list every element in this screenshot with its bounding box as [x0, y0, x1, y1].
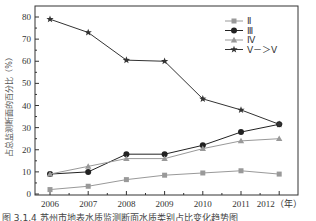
legend: ⅡⅢⅣⅤ－＞Ⅴ [225, 16, 278, 55]
svg-text:Ⅴ－＞Ⅴ: Ⅴ－＞Ⅴ [247, 45, 278, 55]
legend-item: Ⅴ－＞Ⅴ [225, 45, 278, 55]
x-tick-label: 2009 [156, 199, 175, 209]
x-tick-label: 2012（年） [257, 198, 302, 209]
x-tick-label: 2010 [194, 199, 213, 209]
plot-frame [35, 6, 298, 195]
x-tick-label: 2007 [79, 199, 98, 209]
y-tick-label: 80 [22, 12, 32, 22]
series-iii [47, 121, 282, 177]
legend-item: Ⅳ [225, 35, 256, 45]
legend-item: Ⅱ [225, 16, 251, 26]
x-tick-label: 2011 [232, 199, 250, 209]
y-tick-label: 60 [22, 56, 32, 66]
legend-item: Ⅲ [225, 26, 253, 36]
y-tick-label: 40 [22, 101, 32, 111]
y-tick-label: 0 [27, 189, 32, 199]
figure-caption: 图 3.1.4 苏州市地表水质监测断面水质类别占比变化趋势图 [2, 211, 238, 221]
y-tick-label: 70 [22, 34, 32, 44]
line-chart: 01020304050607080 2006200720082009201020… [0, 0, 316, 221]
y-tick-label: 30 [22, 123, 32, 133]
svg-text:Ⅳ: Ⅳ [247, 35, 256, 45]
svg-text:Ⅱ: Ⅱ [247, 16, 251, 26]
y-axis-label: 占总监测断面的百分比（%） [4, 53, 14, 157]
y-tick-label: 50 [22, 78, 32, 88]
x-axis: 2006200720082009201020112012（年） [41, 191, 302, 209]
svg-text:Ⅲ: Ⅲ [247, 26, 253, 36]
x-tick-label: 2008 [117, 199, 136, 209]
y-tick-label: 10 [22, 167, 32, 177]
y-axis: 01020304050607080 [22, 12, 39, 199]
y-tick-label: 20 [22, 145, 32, 155]
x-tick-label: 2006 [41, 199, 60, 209]
series-iv [47, 135, 283, 176]
